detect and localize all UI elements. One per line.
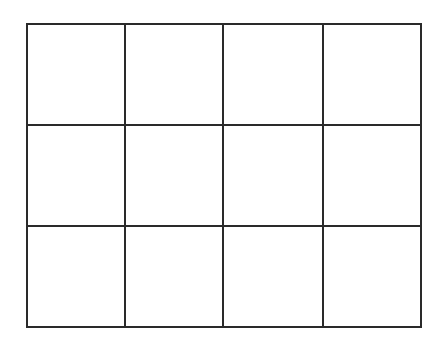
- grid-cell-r3-c4: [322, 225, 422, 328]
- grid-diagram: [0, 0, 444, 345]
- grid-cell-r3-c3: [222, 225, 324, 328]
- grid-cell-r2-c2: [124, 124, 224, 227]
- grid-cell-r2-c3: [222, 124, 324, 227]
- grid-cell-r3-c2: [124, 225, 224, 328]
- grid-cell-r3-c1: [26, 225, 126, 328]
- grid-cell-r1-c3: [222, 23, 324, 126]
- grid-cell-r2-c1: [26, 124, 126, 227]
- grid-cell-r1-c1: [26, 23, 126, 126]
- grid-cell-r1-c2: [124, 23, 224, 126]
- grid-cell-r2-c4: [322, 124, 422, 227]
- grid-cell-r1-c4: [322, 23, 422, 126]
